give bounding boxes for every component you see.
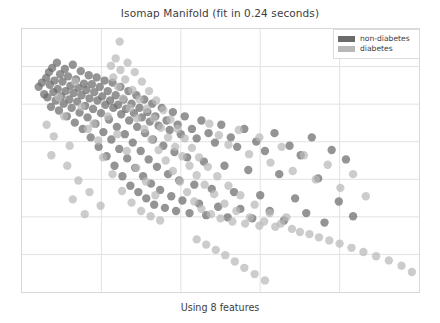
legend-label-non-diabetes: non-diabetes (360, 34, 410, 44)
chart-title: Isomap Manifold (fit in 0.24 seconds) (0, 7, 440, 19)
x-axis-caption: Using 8 features (0, 302, 440, 313)
legend-item-non-diabetes[interactable]: non-diabetes (338, 34, 415, 44)
legend-swatch-non-diabetes (338, 36, 355, 42)
scatter-points (22, 29, 419, 292)
legend-swatch-diabetes (338, 46, 355, 52)
chart-figure: Isomap Manifold (fit in 0.24 seconds) no… (0, 0, 440, 323)
legend-label-diabetes: diabetes (360, 44, 393, 54)
legend-item-diabetes[interactable]: diabetes (338, 44, 415, 54)
plot-area (21, 28, 420, 293)
chart-legend: non-diabetes diabetes (333, 29, 420, 59)
